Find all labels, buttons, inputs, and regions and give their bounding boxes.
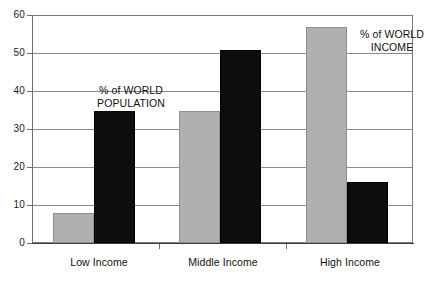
y-tick-label-10-wrap: 10 xyxy=(0,200,25,210)
bar-middle-income-population xyxy=(179,111,220,243)
bar-low-income-income xyxy=(94,111,135,243)
y-tick-label-20-wrap: 20 xyxy=(0,162,25,172)
annotation-world-income: % of WORLD INCOME xyxy=(352,28,432,53)
y-tick-50 xyxy=(27,53,32,54)
y-tick-60 xyxy=(27,15,32,16)
bar-low-income-population xyxy=(53,213,94,243)
x-tick-boundary-1 xyxy=(159,244,160,249)
y-tick-label-60: 60 xyxy=(1,10,25,20)
annotation-world-income-line1: % of WORLD xyxy=(360,28,424,40)
y-tick-label-40-wrap: 40 xyxy=(0,86,25,96)
y-tick-30 xyxy=(27,129,32,130)
bar-high-income-population xyxy=(306,27,347,243)
y-tick-40 xyxy=(27,91,32,92)
annotation-world-population-line2: POPULATION xyxy=(72,97,190,110)
x-axis-line xyxy=(32,243,414,244)
y-tick-label-20: 20 xyxy=(1,162,25,172)
y-tick-20 xyxy=(27,167,32,168)
y-tick-10 xyxy=(27,205,32,206)
y-tick-label-60-wrap: 60 xyxy=(0,10,25,20)
x-axis-label-low-income: Low Income xyxy=(40,256,158,268)
x-axis-label-middle-income: Middle Income xyxy=(164,256,282,268)
bar-high-income-income xyxy=(347,182,388,243)
y-tick-label-0-wrap: 0 xyxy=(0,238,25,248)
y-tick-label-0: 0 xyxy=(1,238,25,248)
annotation-world-population-line1: % of WORLD xyxy=(99,84,163,96)
bar-middle-income-income xyxy=(220,50,261,243)
y-tick-label-10: 10 xyxy=(1,200,25,210)
y-tick-label-50: 50 xyxy=(1,48,25,58)
y-tick-label-30: 30 xyxy=(1,124,25,134)
annotation-world-income-line2: INCOME xyxy=(352,41,432,54)
annotation-world-population: % of WORLD POPULATION xyxy=(72,84,190,109)
y-tick-label-30-wrap: 30 xyxy=(0,124,25,134)
x-axis-label-high-income: High Income xyxy=(291,256,409,268)
x-tick-boundary-2 xyxy=(286,244,287,249)
bar-chart: 60 50 40 30 20 10 0 Low Income Middle In… xyxy=(0,0,435,286)
y-tick-label-50-wrap: 50 xyxy=(0,48,25,58)
y-tick-label-40: 40 xyxy=(1,86,25,96)
